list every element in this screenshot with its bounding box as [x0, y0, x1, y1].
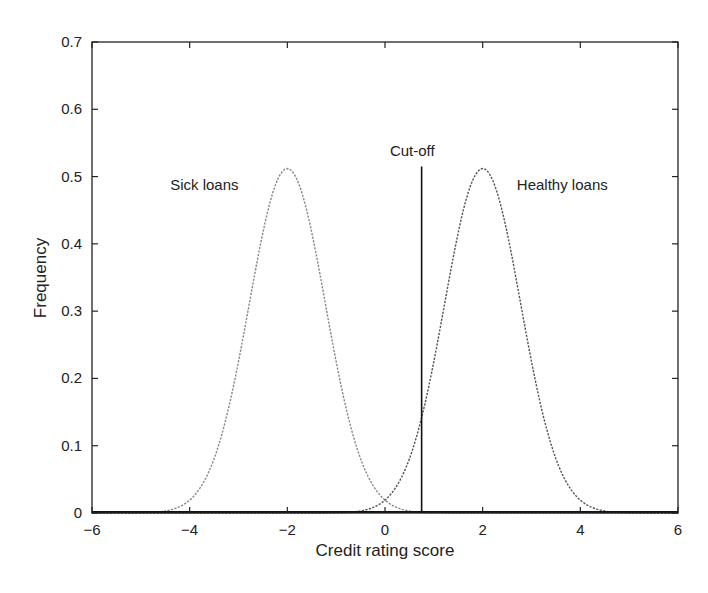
plot-frame — [92, 42, 678, 513]
y-tick-label: 0.4 — [61, 235, 82, 252]
x-tick-label: −6 — [83, 521, 100, 538]
x-tick-label: 4 — [576, 521, 584, 538]
distribution-chart: −6−4−20246 00.10.20.30.40.50.60.7 Cut-of… — [0, 0, 708, 593]
healthy-loans-label: Healthy loans — [517, 176, 608, 193]
y-tick-label: 0.3 — [61, 302, 82, 319]
cutoff-label: Cut-off — [390, 142, 436, 159]
healthy-loans-curve — [92, 169, 678, 514]
y-axis-ticks: 00.10.20.30.40.50.60.7 — [61, 33, 678, 521]
x-axis-label: Credit rating score — [316, 541, 455, 560]
y-tick-label: 0.6 — [61, 100, 82, 117]
plot-curves — [92, 169, 678, 514]
sick-loans-label: Sick loans — [170, 176, 238, 193]
sick-loans-curve — [92, 169, 678, 514]
y-axis-label: Frequency — [31, 237, 50, 318]
y-tick-label: 0 — [74, 504, 82, 521]
x-tick-label: −4 — [181, 521, 198, 538]
y-tick-label: 0.7 — [61, 33, 82, 50]
x-tick-label: 6 — [674, 521, 682, 538]
y-tick-label: 0.2 — [61, 369, 82, 386]
x-tick-label: −2 — [279, 521, 296, 538]
x-tick-label: 0 — [381, 521, 389, 538]
x-axis-ticks: −6−4−20246 — [83, 42, 682, 538]
x-tick-label: 2 — [478, 521, 486, 538]
y-tick-label: 0.5 — [61, 168, 82, 185]
y-tick-label: 0.1 — [61, 437, 82, 454]
